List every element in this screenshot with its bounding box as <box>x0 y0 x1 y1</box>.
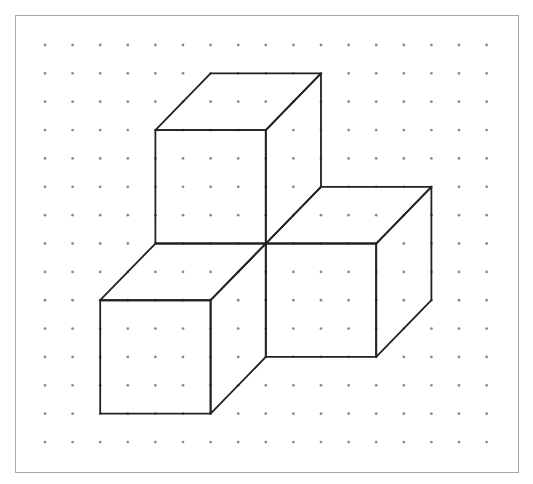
grid-dot <box>126 185 129 188</box>
grid-dot <box>292 44 295 47</box>
grid-dot <box>320 384 323 387</box>
grid-dot <box>71 72 74 75</box>
grid-dot <box>264 441 267 444</box>
grid-dot <box>237 441 240 444</box>
grid-dot <box>402 412 405 415</box>
grid-dot <box>99 214 102 217</box>
grid-dot <box>209 185 212 188</box>
grid-dot <box>430 157 433 160</box>
grid-dot <box>430 129 433 132</box>
grid-dot <box>154 270 157 273</box>
grid-dot <box>182 157 185 160</box>
grid-dot <box>430 441 433 444</box>
grid-dot <box>402 299 405 302</box>
grid-dot <box>485 157 488 160</box>
grid-dot <box>347 72 350 75</box>
grid-dot <box>320 412 323 415</box>
grid-dot <box>182 185 185 188</box>
grid-dot <box>375 100 378 103</box>
grid-dot <box>402 356 405 359</box>
grid-dot <box>237 100 240 103</box>
grid-dot <box>99 270 102 273</box>
grid-dot <box>292 270 295 273</box>
grid-dot <box>154 384 157 387</box>
grid-dot <box>292 327 295 330</box>
grid-dot <box>458 299 461 302</box>
grid-dot <box>154 441 157 444</box>
grid-dot <box>402 129 405 132</box>
grid-dot <box>71 384 74 387</box>
grid-dot <box>182 356 185 359</box>
grid-dot <box>320 441 323 444</box>
grid-dot <box>485 270 488 273</box>
grid-dot <box>237 327 240 330</box>
grid-dot <box>402 44 405 47</box>
grid-dot <box>44 270 47 273</box>
grid-dot <box>182 327 185 330</box>
grid-dot <box>458 327 461 330</box>
grid-dot <box>209 157 212 160</box>
grid-dot <box>402 157 405 160</box>
grid-dot <box>71 44 74 47</box>
grid-dot <box>375 384 378 387</box>
grid-dot <box>71 214 74 217</box>
grid-dot <box>71 441 74 444</box>
grid-dot <box>126 441 129 444</box>
grid-dot <box>44 185 47 188</box>
grid-dot <box>71 185 74 188</box>
grid-dot <box>71 242 74 245</box>
grid-dot <box>375 129 378 132</box>
grid-dot <box>99 100 102 103</box>
grid-dot <box>154 72 157 75</box>
grid-dot <box>126 327 129 330</box>
grid-dot <box>71 270 74 273</box>
grid-dot <box>44 327 47 330</box>
grid-dot <box>44 157 47 160</box>
grid-dot <box>458 384 461 387</box>
grid-dot <box>375 214 378 217</box>
grid-dot <box>264 100 267 103</box>
grid-dot <box>44 100 47 103</box>
grid-dot <box>292 299 295 302</box>
grid-dot <box>71 129 74 132</box>
grid-dot <box>430 327 433 330</box>
grid-dot <box>485 129 488 132</box>
grid-dot <box>458 100 461 103</box>
grid-dot <box>402 384 405 387</box>
grid-dot <box>237 44 240 47</box>
grid-dot <box>126 356 129 359</box>
grid-dot <box>44 72 47 75</box>
grid-dot <box>347 412 350 415</box>
grid-dot <box>347 157 350 160</box>
grid-dot <box>347 299 350 302</box>
isometric-cube-drawing <box>0 0 533 484</box>
grid-dot <box>182 72 185 75</box>
grid-dot <box>347 129 350 132</box>
grid-dot <box>44 299 47 302</box>
grid-dot <box>292 441 295 444</box>
grid-dot <box>485 299 488 302</box>
grid-dot <box>182 441 185 444</box>
grid-dot <box>237 157 240 160</box>
grid-dot <box>44 242 47 245</box>
grid-dot <box>430 384 433 387</box>
grid-dot <box>44 441 47 444</box>
grid-dot <box>430 412 433 415</box>
grid-dot <box>71 157 74 160</box>
grid-dot <box>182 270 185 273</box>
grid-dot <box>44 214 47 217</box>
grid-dot <box>209 100 212 103</box>
grid-dot <box>430 100 433 103</box>
grid-dot <box>44 129 47 132</box>
grid-dot <box>485 412 488 415</box>
grid-dot <box>99 157 102 160</box>
grid-dot <box>375 441 378 444</box>
grid-dot <box>126 44 129 47</box>
grid-dot <box>347 214 350 217</box>
grid-dot <box>320 270 323 273</box>
grid-dot <box>182 44 185 47</box>
grid-dot <box>292 412 295 415</box>
grid-dot <box>430 72 433 75</box>
grid-dot <box>402 100 405 103</box>
grid-dot <box>430 356 433 359</box>
